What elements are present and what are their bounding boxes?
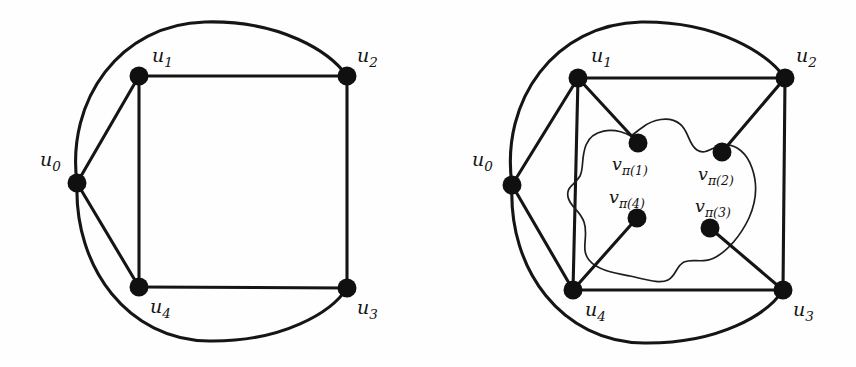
node-vpi2[interactable] <box>713 143 732 162</box>
label-u1: u1 <box>152 44 173 70</box>
edge-u0-u3-arc <box>512 185 783 343</box>
edge-u0-u1 <box>77 76 139 183</box>
right-graph-inner-edges <box>573 78 785 290</box>
node-u2[interactable] <box>776 69 795 88</box>
right-graph-panel: u0 u1 u2 u3 u4 vπ(1) vπ(2) vπ(3) <box>428 0 856 367</box>
node-vpi4[interactable] <box>628 209 647 228</box>
label-vpi2: vπ(2) <box>698 164 734 188</box>
label-u4: u4 <box>150 295 171 321</box>
left-graph-edges <box>76 22 347 341</box>
edge-u0-u4 <box>512 185 573 290</box>
label-u2: u2 <box>357 44 378 70</box>
label-u0: u0 <box>40 148 61 174</box>
left-graph-panel: u0 u1 u2 u3 u4 <box>0 0 428 367</box>
edge-u1-vpi1 <box>578 78 638 143</box>
node-vpi3[interactable] <box>701 219 720 238</box>
left-graph-nodes <box>68 67 357 298</box>
node-u4[interactable] <box>130 278 149 297</box>
right-graph-labels: u0 u1 u2 u3 u4 vπ(1) vπ(2) vπ(3) <box>472 44 817 324</box>
label-u4: u4 <box>585 298 606 324</box>
right-graph-nodes <box>503 69 795 300</box>
label-vpi4: vπ(4) <box>609 187 645 211</box>
node-vpi1[interactable] <box>629 134 648 153</box>
node-u2[interactable] <box>338 67 357 86</box>
edge-u0-u2-arc <box>510 22 785 185</box>
node-u0[interactable] <box>68 174 87 193</box>
edge-u3-u4 <box>139 287 347 288</box>
label-u3: u3 <box>357 296 378 322</box>
edge-u0-u4 <box>77 183 139 287</box>
right-graph-edges <box>510 22 785 343</box>
label-u1: u1 <box>591 44 612 70</box>
node-u1[interactable] <box>569 69 588 88</box>
edge-u0-u3-arc <box>77 183 347 341</box>
label-u0: u0 <box>472 148 493 174</box>
edge-u3-vpi3 <box>710 228 783 290</box>
node-u3[interactable] <box>774 281 793 300</box>
label-vpi1: vπ(1) <box>612 154 648 178</box>
node-u4[interactable] <box>564 281 583 300</box>
node-u3[interactable] <box>338 279 357 298</box>
label-u2: u2 <box>796 44 817 70</box>
edge-u0-u2-arc <box>76 22 347 183</box>
edge-u2-vpi2 <box>722 78 785 152</box>
label-vpi3: vπ(3) <box>695 196 731 220</box>
label-u3: u3 <box>793 298 814 324</box>
edge-u4-vpi4 <box>573 218 637 290</box>
node-u1[interactable] <box>130 67 149 86</box>
node-u0[interactable] <box>503 176 522 195</box>
edge-u2-u3 <box>783 78 785 290</box>
edge-u0-u1 <box>512 78 578 185</box>
graph-figure: u0 u1 u2 u3 u4 <box>0 0 856 367</box>
left-graph-labels: u0 u1 u2 u3 u4 <box>40 44 378 322</box>
